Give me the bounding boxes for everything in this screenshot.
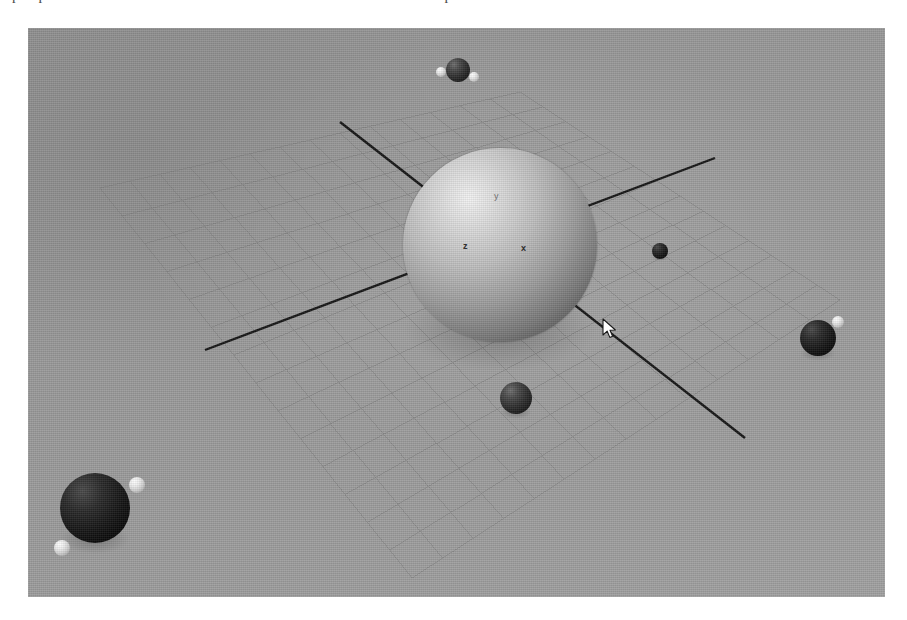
axis-line-b [205,158,715,350]
ground-grid-lines [100,92,840,578]
viewport-3d[interactable]: z x y [28,28,885,597]
top-text-fragment-content: perspective view of the simulation cell … [12,0,525,3]
page-top-text-fragment: perspective view of the simulation cell … [0,0,907,12]
page-root: { "page": { "width": 907, "height": 620,… [0,0,907,620]
scene-vector-layer [28,28,885,597]
scene-container: z x y [28,28,885,597]
